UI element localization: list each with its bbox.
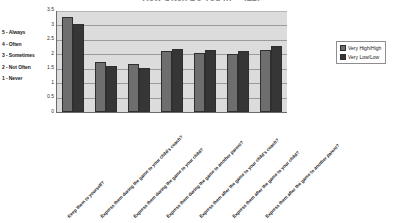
chart-legend: Very High/High Very Low/Low bbox=[336, 41, 386, 64]
bar-group bbox=[123, 11, 156, 112]
x-axis-label: Express them after the game to your chil… bbox=[231, 150, 300, 219]
bar-group bbox=[90, 11, 123, 112]
y-axis-tick: 3 bbox=[51, 21, 54, 26]
bar-very-low-low bbox=[271, 46, 282, 112]
bar-group bbox=[254, 11, 287, 112]
bar-very-high-high bbox=[95, 62, 106, 113]
bar-very-low-low bbox=[238, 51, 249, 112]
y-axis-tick: 3.5 bbox=[47, 7, 54, 12]
y-axis-tick: 1.5 bbox=[47, 65, 54, 70]
bar-very-low-low bbox=[139, 68, 150, 112]
legend-swatch-icon bbox=[340, 54, 346, 60]
bar-very-high-high bbox=[227, 54, 238, 112]
bar-very-high-high bbox=[161, 51, 172, 112]
legend-item-very-low-low: Very Low/Low bbox=[340, 54, 381, 60]
x-axis-labels: Keep them to yourself? Express them duri… bbox=[56, 113, 286, 219]
bar-very-high-high bbox=[62, 17, 73, 112]
x-axis-label: Express them during the game to your chi… bbox=[133, 147, 205, 219]
y-axis-tick: 0 bbox=[51, 109, 54, 114]
bar-very-low-low bbox=[205, 50, 216, 112]
bar-chart: How Often Do You (n = 422) 5 - Always 4 … bbox=[0, 0, 402, 223]
legend-swatch-icon bbox=[340, 45, 346, 51]
y-axis: 3.5 3 2.5 2 1.5 1 0.5 0 bbox=[39, 9, 55, 113]
legend-label: Very High/High bbox=[348, 45, 381, 51]
bar-groups bbox=[57, 11, 287, 112]
bar-very-high-high bbox=[128, 64, 139, 112]
legend-label: Very Low/Low bbox=[348, 54, 379, 60]
bar-group bbox=[188, 11, 221, 112]
bar-very-low-low bbox=[172, 49, 183, 112]
y-axis-tick: 2.5 bbox=[47, 36, 54, 41]
bar-very-high-high bbox=[194, 53, 205, 112]
bar-group bbox=[156, 11, 189, 112]
x-axis-label: Express them after the game to another p… bbox=[264, 143, 340, 219]
y-axis-tick: 1 bbox=[51, 79, 54, 84]
plot-area bbox=[56, 11, 287, 113]
y-axis-tick: 0.5 bbox=[47, 94, 54, 99]
bar-very-low-low bbox=[106, 66, 117, 112]
legend-item-very-high-high: Very High/High bbox=[340, 45, 381, 51]
bar-very-low-low bbox=[73, 24, 84, 112]
bar-group bbox=[57, 11, 90, 112]
bar-group bbox=[221, 11, 254, 112]
y-axis-tick: 2 bbox=[51, 50, 54, 55]
bar-very-high-high bbox=[260, 50, 271, 112]
chart-title: How Often Do You (n = 422) bbox=[0, 0, 402, 1]
